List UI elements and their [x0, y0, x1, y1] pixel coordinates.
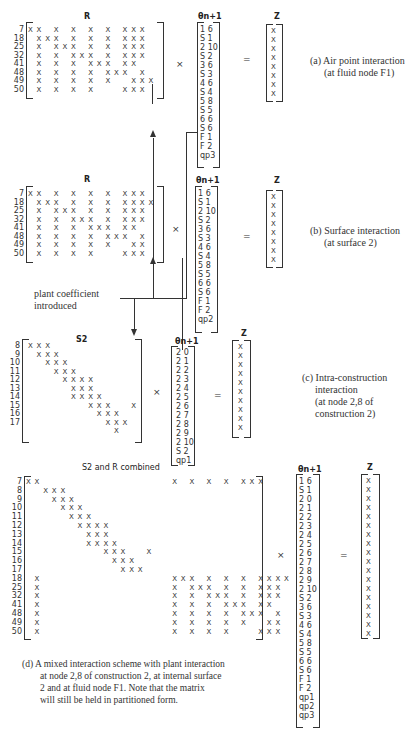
matrix-entry: X [105, 233, 110, 241]
vector-entry: X [366, 558, 371, 567]
matrix-entry: X [123, 224, 128, 232]
matrix-entry: X [86, 540, 91, 548]
matrix-entry: X [88, 199, 93, 207]
matrix-entry: X [60, 487, 65, 495]
vector-entry: S 4 [299, 630, 317, 639]
matrix-entry: X [224, 610, 229, 618]
z-vector-title-c: Z [241, 329, 247, 338]
vector-entry: F 1 [198, 297, 216, 306]
matrix-entry: X [140, 43, 145, 51]
matrix-entry: X [97, 60, 102, 68]
matrix-entry: X [215, 592, 220, 600]
matrix-entry: X [123, 233, 128, 241]
vector-entry: S 6 [198, 288, 216, 297]
matrix-entry: X [207, 628, 212, 636]
matrix-entry: X [95, 531, 100, 539]
matrix-entry: X [54, 359, 59, 367]
matrix-entry: X [114, 410, 119, 418]
matrix-entry: X [131, 190, 136, 198]
matrix-entry: X [275, 610, 280, 618]
vector-entry: X [366, 576, 371, 585]
matrix-entry: X [45, 35, 50, 43]
row-label: 50 [4, 250, 24, 259]
vector-entry: X [366, 486, 371, 495]
vector-entry: X [366, 540, 371, 549]
vector-entry: 2 8 [176, 420, 194, 429]
vector-entry: X [271, 220, 276, 229]
matrix-entry: X [123, 69, 128, 77]
matrix-entry: X [95, 540, 100, 548]
matrix-entry: X [80, 385, 85, 393]
vector-entry: 2 8 [299, 567, 317, 576]
vector-entry: 2 0 [176, 348, 194, 357]
matrix-entry: X [35, 628, 40, 636]
matrix-entry: X [71, 250, 76, 258]
matrix-entry: X [172, 601, 177, 609]
matrix-entry: X [37, 190, 42, 198]
matrix-entry: X [131, 35, 136, 43]
vector-entry: S 1 [200, 34, 218, 43]
caption-a-line2: (at fluid node F1) [310, 67, 413, 79]
matrix-entry: X [80, 216, 85, 224]
times-operator-d: × [277, 550, 285, 560]
matrix-entry: X [123, 419, 128, 427]
vector-entry: 3 6 [200, 61, 218, 70]
matrix-entry: X [131, 402, 136, 410]
matrix-entry: X [131, 52, 136, 60]
matrix-entry: X [140, 190, 145, 198]
vector-entry: S 5 [198, 270, 216, 279]
matrix-entry: X [88, 393, 93, 401]
matrix-entry: X [123, 43, 128, 51]
matrix-entry: X [35, 575, 40, 583]
equals-operator-c: = [214, 390, 222, 400]
matrix-entry: X [45, 351, 50, 359]
matrix-entry: X [88, 216, 93, 224]
matrix-r-row-labels-b: 718253241484950 [4, 190, 24, 258]
matrix-entry: X [121, 557, 126, 565]
vector-entry: X [366, 585, 371, 594]
matrix-entry: X [71, 60, 76, 68]
matrix-entry: X [60, 496, 65, 504]
matrix-entry: X [71, 376, 76, 384]
vector-entry: X [271, 256, 276, 265]
vector-entry: S 1 [299, 486, 317, 495]
z-right-bracket-b [276, 190, 283, 268]
z-vector-title-a: Z [274, 12, 280, 21]
times-operator-b: × [172, 224, 180, 234]
arrow-down-icon-c [131, 329, 137, 336]
matrix-entry: X [131, 60, 136, 68]
theta-vector-title-c: θn+1 [175, 337, 198, 346]
vector-entry: 2 4 [299, 531, 317, 540]
matrix-entry: X [28, 26, 33, 34]
vector-entry: S 4 [200, 88, 218, 97]
matrix-entry: X [103, 531, 108, 539]
matrix-entry: X [129, 557, 134, 565]
vector-entry: 2 3 [176, 375, 194, 384]
matrix-entry: X [267, 575, 272, 583]
matrix-entry: X [172, 584, 177, 592]
matrix-entry: X [140, 86, 145, 94]
matrix-entry: X [103, 522, 108, 530]
matrix-entry: X [114, 419, 119, 427]
matrix-entry: X [241, 575, 246, 583]
matrix-entry: X [105, 419, 110, 427]
matrix-entry: X [35, 601, 40, 609]
vector-entry: X [271, 72, 276, 81]
matrix-entry: X [131, 250, 136, 258]
vector-entry: 3 6 [198, 225, 216, 234]
vector-entry: F 1 [200, 133, 218, 142]
matrix-entry: X [146, 548, 151, 556]
caption-d-line2: at node 2,8 of construction 2, at intern… [22, 670, 292, 682]
matrix-entry: X [78, 522, 83, 530]
matrix-entry: X [267, 628, 272, 636]
matrix-entry: X [54, 368, 59, 376]
vector-entry: X [271, 229, 276, 238]
matrix-entry: X [284, 575, 289, 583]
matrix-entry: X [37, 250, 42, 258]
matrix-entry: X [207, 575, 212, 583]
matrix-entry: X [181, 575, 186, 583]
matrix-entry: X [52, 487, 57, 495]
matrix-entry: X [62, 207, 67, 215]
vector-entry: 6 6 [198, 279, 216, 288]
matrix-entry: X [97, 410, 102, 418]
